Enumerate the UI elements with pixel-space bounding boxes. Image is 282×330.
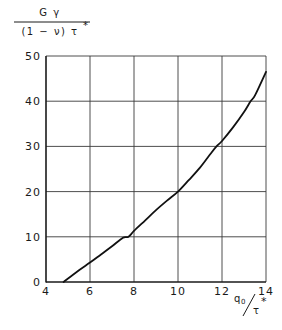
y-label-star: * — [83, 20, 90, 31]
y-label-denominator: (1 − ν) τ — [21, 26, 78, 37]
x-label-q: q — [234, 293, 240, 304]
data-curve — [64, 72, 266, 282]
axes — [46, 56, 266, 283]
x-label-star: * — [261, 295, 267, 308]
grid-lines — [46, 56, 266, 282]
chart: G γ (1 − ν) τ * 01020304050 468101214 q … — [0, 0, 282, 330]
x-label-subscript: 0 — [241, 298, 245, 306]
y-tick-label: 10 — [25, 231, 41, 244]
y-label-numerator: G γ — [39, 7, 60, 18]
x-tick-label: 6 — [86, 285, 94, 298]
y-tick-label: 30 — [25, 140, 41, 153]
x-tick-label: 8 — [130, 285, 138, 298]
x-tick-label: 12 — [214, 285, 230, 298]
y-tick-label: 50 — [25, 50, 41, 63]
x-label-tau: τ — [253, 305, 259, 316]
y-tick-label: 40 — [25, 95, 41, 108]
y-tick-labels: 01020304050 — [25, 50, 41, 289]
y-tick-label: 20 — [25, 186, 41, 199]
y-axis-label: G γ (1 − ν) τ * — [14, 7, 90, 37]
x-tick-label: 4 — [42, 285, 50, 298]
x-axis-label: q 0 τ * — [234, 293, 267, 316]
y-tick-label: 0 — [33, 276, 41, 289]
x-tick-label: 10 — [170, 285, 186, 298]
